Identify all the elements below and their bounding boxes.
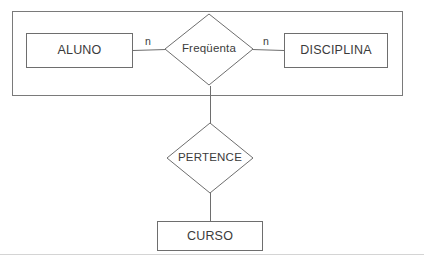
connector-frequenta-disciplina xyxy=(252,50,284,51)
cardinality-label-frequenta-disciplina: n xyxy=(261,36,271,47)
relationship-label-frequenta: Freqüenta xyxy=(165,43,253,55)
er-diagram-vector-layer xyxy=(0,0,424,264)
connector-aluno-frequenta xyxy=(133,50,166,51)
relationship-label-pertence: PERTENCE xyxy=(167,152,253,164)
entity-label-disciplina: DISCIPLINA xyxy=(284,44,388,57)
entity-label-curso: CURSO xyxy=(157,230,263,243)
cardinality-label-aluno-frequenta: n xyxy=(143,36,153,47)
er-diagram-canvas: ALUNO DISCIPLINA CURSO Freqüenta PERTENC… xyxy=(0,0,424,264)
entity-label-aluno: ALUNO xyxy=(26,44,133,57)
